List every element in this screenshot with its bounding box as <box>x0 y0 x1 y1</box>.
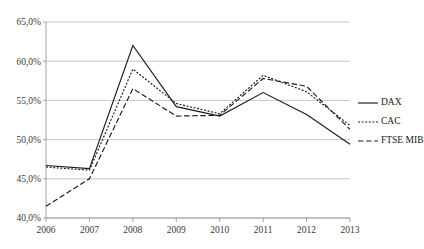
legend-label-cac: CAC <box>381 116 401 126</box>
y-tick-label-5: 65,0% <box>16 17 41 27</box>
x-tick-label-7: 2013 <box>341 225 360 235</box>
x-tick-label-5: 2011 <box>254 225 273 235</box>
x-tick-label-0: 2006 <box>37 225 56 235</box>
x-tick-label-3: 2009 <box>167 225 186 235</box>
x-tick-label-1: 2007 <box>80 225 99 235</box>
series-line-cac <box>46 69 350 170</box>
y-tick-label-2: 50,0% <box>16 135 41 145</box>
x-axis-tick-labels: 20062007200820092010201120122013 <box>37 225 360 235</box>
line-chart: 40,0%45,0%50,0%55,0%60,0%65,0% 200620072… <box>0 0 424 249</box>
x-axis-tick-marks <box>46 218 350 222</box>
chart-container: 40,0%45,0%50,0%55,0%60,0%65,0% 200620072… <box>0 0 424 249</box>
series-line-ftse-mib <box>46 78 350 206</box>
x-tick-label-4: 2010 <box>210 225 229 235</box>
chart-legend: DAXCACFTSE MIB <box>358 97 424 145</box>
data-series-group <box>46 46 350 207</box>
legend-label-ftse-mib: FTSE MIB <box>381 135 424 145</box>
y-tick-label-4: 60,0% <box>16 57 41 67</box>
y-axis-tick-labels: 40,0%45,0%50,0%55,0%60,0%65,0% <box>16 17 41 223</box>
series-line-dax <box>46 46 350 169</box>
x-tick-label-2: 2008 <box>123 225 142 235</box>
gridlines <box>46 22 350 218</box>
x-tick-label-6: 2012 <box>297 225 316 235</box>
y-tick-label-0: 40,0% <box>16 213 41 223</box>
y-axis <box>43 22 46 218</box>
y-tick-label-3: 55,0% <box>16 96 41 106</box>
legend-label-dax: DAX <box>381 97 402 107</box>
y-tick-label-1: 45,0% <box>16 174 41 184</box>
